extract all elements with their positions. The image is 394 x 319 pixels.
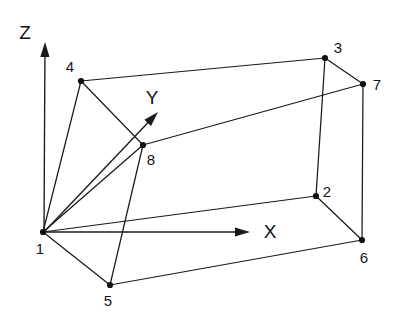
element-edge	[43, 81, 81, 232]
node-label-6: 6	[360, 250, 369, 265]
node-marker-3	[322, 55, 328, 61]
element-edge	[81, 58, 325, 81]
node-marker-8	[140, 142, 146, 148]
element-edge	[325, 58, 363, 84]
node-label-7: 7	[373, 77, 382, 92]
element-edge	[362, 84, 363, 240]
node-label-8: 8	[147, 152, 156, 167]
node-label-3: 3	[334, 40, 343, 55]
axis-z-arrowhead-icon	[40, 42, 49, 57]
edges-group	[43, 58, 363, 285]
node-label-2: 2	[323, 184, 332, 199]
node-label-1: 1	[36, 241, 45, 256]
element-edge	[43, 232, 110, 285]
element-edge	[81, 81, 143, 145]
diagram-canvas: 12345678 ZYX	[0, 0, 394, 319]
node-label-5: 5	[104, 293, 113, 308]
axis-label-x: X	[264, 222, 277, 241]
element-edge	[43, 145, 143, 232]
node-marker-2	[313, 193, 319, 199]
axis-x-arrowhead-icon	[235, 227, 250, 236]
axis-z-shaft	[44, 55, 45, 232]
node-label-4: 4	[66, 59, 75, 74]
element-edge	[110, 240, 362, 285]
element-edge	[143, 84, 363, 145]
axis-label-z: Z	[19, 23, 31, 42]
element-edge	[110, 145, 143, 285]
axis-label-y: Y	[146, 88, 159, 107]
node-marker-7	[360, 81, 366, 87]
element-edge	[316, 196, 362, 240]
node-marker-5	[107, 282, 113, 288]
axis-y-shaft	[44, 121, 149, 232]
node-marker-6	[359, 237, 365, 243]
element-edge	[316, 58, 325, 196]
node-marker-4	[78, 78, 84, 84]
node-marker-1	[40, 229, 46, 235]
